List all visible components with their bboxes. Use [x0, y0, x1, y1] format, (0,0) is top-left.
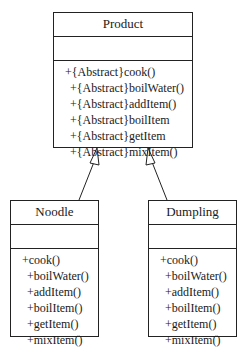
- class-name: Product: [54, 13, 192, 37]
- operation: +boilItem(): [22, 300, 98, 316]
- class-noodle: Noodle +cook() +boilWater() +addItem() +…: [10, 200, 99, 337]
- operation: +addItem(): [22, 284, 98, 300]
- operations-compartment: +{Abstract}cook() +{Abstract}boilWater()…: [54, 61, 192, 160]
- attributes-compartment: [149, 225, 236, 249]
- operation: +{Abstract}addItem(): [65, 96, 192, 112]
- class-dumpling: Dumpling +cook() +boilWater() +addItem()…: [148, 200, 237, 337]
- operation: +boilItem(): [160, 300, 236, 316]
- dumpling-generalization-line: [152, 162, 167, 200]
- operation: +cook(): [160, 252, 236, 268]
- attributes-compartment: [11, 225, 98, 249]
- operation: +cook(): [22, 252, 98, 268]
- attributes-compartment: [54, 37, 192, 61]
- operation: +boilWater(): [160, 268, 236, 284]
- operation: +getItem(): [22, 316, 98, 332]
- operation: +{Abstract}boilWater(): [65, 80, 192, 96]
- operation: +addItem(): [160, 284, 236, 300]
- operation: +mixItem(): [22, 332, 98, 347]
- operation: +{Abstract}mixItem(): [65, 144, 192, 160]
- class-name: Dumpling: [149, 201, 236, 225]
- class-product: Product +{Abstract}cook() +{Abstract}boi…: [53, 12, 193, 148]
- operations-compartment: +cook() +boilWater() +addItem() +boilIte…: [11, 249, 98, 347]
- operation: +{Abstract}cook(): [65, 64, 192, 80]
- operations-compartment: +cook() +boilWater() +addItem() +boilIte…: [149, 249, 236, 347]
- class-name: Noodle: [11, 201, 98, 225]
- operation: +{Abstract}getItem: [65, 128, 192, 144]
- operation: +{Abstract}boilItem: [65, 112, 192, 128]
- operation: +getItem(): [160, 316, 236, 332]
- operation: +boilWater(): [22, 268, 98, 284]
- noodle-generalization-line: [79, 162, 94, 200]
- operation: +mixItem(): [160, 332, 236, 347]
